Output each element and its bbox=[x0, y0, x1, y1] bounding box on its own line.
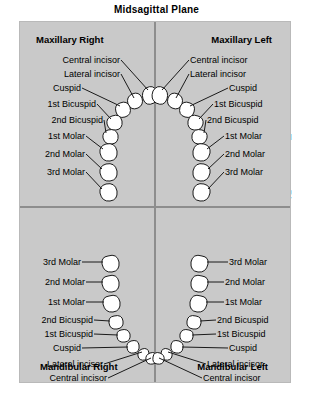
label-mandibular-right-lateral-incisor: Lateral incisor bbox=[47, 359, 103, 369]
label-mandibular-right-3rd-molar: 3rd Molar bbox=[43, 257, 81, 267]
label-mandibular-left-1st-bicuspid: 1st Bicuspid bbox=[217, 329, 266, 339]
label-mandibular-right-central-incisor: Central incisor bbox=[49, 373, 107, 383]
arch-illustration bbox=[20, 22, 290, 382]
maxillary-right-teeth bbox=[100, 87, 158, 202]
label-maxillary-left-cuspid: Cuspid bbox=[229, 83, 257, 93]
label-mandibular-right-2nd-molar: 2nd Molar bbox=[45, 277, 85, 287]
label-maxillary-left-3rd-molar: 3rd Molar bbox=[225, 167, 263, 177]
label-maxillary-right-1st-bicuspid: 1st Bicuspid bbox=[47, 99, 96, 109]
label-mandibular-right-1st-molar: 1st Molar bbox=[48, 297, 85, 307]
label-mandibular-left-3rd-molar: 3rd Molar bbox=[229, 257, 267, 267]
label-maxillary-left-lateral-incisor: Lateral incisor bbox=[190, 69, 246, 79]
label-mandibular-left-cuspid: Cuspid bbox=[229, 343, 257, 353]
label-mandibular-left-2nd-bicuspid: 2nd Bicuspid bbox=[217, 315, 269, 325]
label-maxillary-left-1st-molar: 1st Molar bbox=[225, 131, 262, 141]
label-mandibular-left-lateral-incisor: Lateral incisor bbox=[207, 359, 263, 369]
label-mandibular-right-cuspid: Cuspid bbox=[53, 343, 81, 353]
label-maxillary-right-central-incisor: Central incisor bbox=[62, 55, 120, 65]
label-maxillary-right-2nd-molar: 2nd Molar bbox=[45, 149, 85, 159]
label-maxillary-right-3rd-molar: 3rd Molar bbox=[47, 167, 85, 177]
label-maxillary-right-cuspid: Cuspid bbox=[53, 83, 81, 93]
label-mandibular-left-central-incisor: Central incisor bbox=[203, 373, 261, 383]
label-maxillary-left-2nd-molar: 2nd Molar bbox=[225, 149, 265, 159]
label-maxillary-right-2nd-bicuspid: 2nd Bicuspid bbox=[51, 115, 103, 125]
label-mandibular-right-1st-bicuspid: 1st Bicuspid bbox=[44, 329, 93, 339]
dental-arch-diagram: Midsagittal Plane Transverse Plane Maxil… bbox=[0, 0, 313, 401]
label-maxillary-right-lateral-incisor: Lateral incisor bbox=[64, 69, 120, 79]
diagram-panel: Maxillary Right Maxillary Left Mandibula… bbox=[20, 22, 290, 382]
label-mandibular-left-2nd-molar: 2nd Molar bbox=[225, 277, 265, 287]
label-mandibular-right-2nd-bicuspid: 2nd Bicuspid bbox=[41, 315, 93, 325]
label-maxillary-left-central-incisor: Central incisor bbox=[190, 55, 248, 65]
maxillary-left-teeth bbox=[152, 87, 210, 202]
page-title: Midsagittal Plane bbox=[0, 4, 313, 15]
label-maxillary-right-1st-molar: 1st Molar bbox=[48, 131, 85, 141]
label-maxillary-left-1st-bicuspid: 1st Bicuspid bbox=[214, 99, 263, 109]
label-mandibular-left-1st-molar: 1st Molar bbox=[225, 297, 262, 307]
label-maxillary-left-2nd-bicuspid: 2nd Bicuspid bbox=[207, 115, 259, 125]
